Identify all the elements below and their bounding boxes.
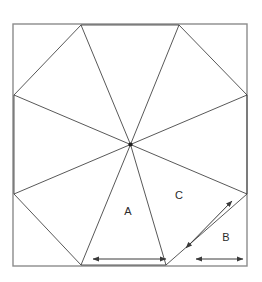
geometry-figure: ACB [0, 0, 262, 282]
label-B: B [222, 231, 229, 243]
center-point [128, 142, 132, 146]
label-A: A [124, 205, 132, 217]
figure-canvas: ACB [0, 0, 262, 282]
label-C: C [175, 189, 183, 201]
